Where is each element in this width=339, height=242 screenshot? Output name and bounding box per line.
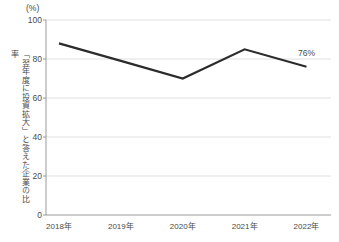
x-tick-label: 2020年 bbox=[170, 221, 196, 231]
y-tick-label: 40 bbox=[33, 132, 43, 142]
y-tick-label: 100 bbox=[28, 15, 42, 25]
x-tick-label: 2019年 bbox=[108, 221, 134, 231]
y-tick-label: 60 bbox=[33, 93, 43, 103]
x-tick-label: 2018年 bbox=[46, 221, 72, 231]
x-tick-label: 2021年 bbox=[232, 221, 258, 231]
endpoint-value-label: 76% bbox=[298, 48, 315, 58]
y-tick-label: 80 bbox=[33, 54, 43, 64]
line-chart-figure: (%) 「翌年度に投資拡大」と答えた企業の比率 0204060801002018… bbox=[0, 0, 339, 242]
y-tick-label: 20 bbox=[33, 171, 43, 181]
x-tick-label: 2022年 bbox=[294, 221, 320, 231]
chart-canvas: 0204060801002018年2019年2020年2021年2022年76% bbox=[0, 0, 339, 242]
y-tick-label: 0 bbox=[37, 210, 42, 220]
data-line bbox=[59, 43, 307, 78]
